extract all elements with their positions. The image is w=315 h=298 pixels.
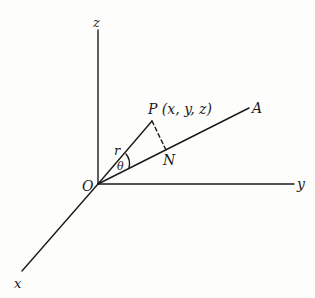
x-axis [22,184,98,271]
point-A-label: A [250,100,262,116]
z-axis-label: z [92,15,100,30]
diagram-canvas: z y x O P (x, y, z) N A r θ [0,0,315,298]
origin-label: O [82,178,94,194]
y-axis-label: y [296,176,306,192]
x-axis-label: x [14,276,22,291]
segment-PN-dashed [152,121,166,150]
point-P-label: P (x, y, z) [147,101,212,117]
r-label: r [114,143,121,158]
theta-label: θ [117,160,124,173]
diagram-svg: z y x O P (x, y, z) N A r θ [0,0,315,298]
point-N-label: N [162,152,176,168]
segment-OP [98,121,152,184]
angle-arc [126,154,130,168]
